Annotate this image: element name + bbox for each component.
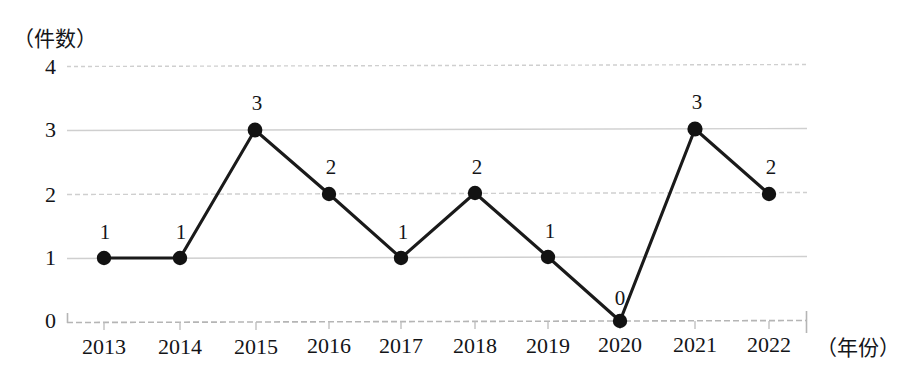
y-tick-label-0: 0 bbox=[26, 310, 56, 332]
line-chart: （件数） （年份） 4 3 2 1 0 2013 2014 2015 2016 … bbox=[0, 0, 914, 385]
data-point-2019[interactable] bbox=[541, 250, 555, 264]
y-tick-label-1: 1 bbox=[26, 247, 56, 269]
x-tick-label-2013: 2013 bbox=[66, 336, 142, 358]
data-label-2020: 0 bbox=[603, 288, 637, 309]
data-label-2021: 3 bbox=[680, 92, 714, 113]
data-point-2017[interactable] bbox=[394, 251, 408, 265]
data-label-2017: 1 bbox=[386, 222, 420, 243]
chart-svg bbox=[0, 0, 914, 385]
gridline-4 bbox=[67, 65, 807, 67]
y-axis-label: （件数） bbox=[13, 22, 97, 52]
data-point-2014[interactable] bbox=[173, 251, 187, 265]
x-axis-line bbox=[67, 321, 807, 323]
x-tick-label-2017: 2017 bbox=[363, 335, 439, 357]
data-point-2020[interactable] bbox=[613, 314, 627, 328]
x-axis bbox=[67, 311, 807, 333]
data-point-2021[interactable] bbox=[687, 121, 702, 136]
x-tick-label-2021: 2021 bbox=[657, 334, 733, 356]
data-label-2016: 2 bbox=[314, 157, 348, 178]
x-tick-label-2014: 2014 bbox=[142, 336, 218, 358]
x-tick-label-2022: 2022 bbox=[731, 334, 807, 356]
x-axis-label: （年份） bbox=[816, 331, 900, 361]
x-tick-label-2015: 2015 bbox=[218, 336, 294, 358]
y-tick-label-4: 4 bbox=[26, 56, 56, 78]
data-point-2022[interactable] bbox=[762, 187, 776, 201]
x-tick-label-2019: 2019 bbox=[510, 335, 586, 357]
data-label-2015: 3 bbox=[240, 93, 274, 114]
data-label-2019: 1 bbox=[533, 221, 567, 242]
data-label-2014: 1 bbox=[164, 222, 198, 243]
gridline-2 bbox=[67, 193, 807, 195]
y-tick-label-3: 3 bbox=[26, 119, 56, 141]
x-tick-label-2018: 2018 bbox=[437, 335, 513, 357]
series-line bbox=[104, 129, 769, 321]
chart-page: （件数） （年份） 4 3 2 1 0 2013 2014 2015 2016 … bbox=[0, 0, 914, 385]
data-point-2015[interactable] bbox=[248, 123, 263, 138]
data-point-2018[interactable] bbox=[468, 186, 482, 200]
data-point-2016[interactable] bbox=[322, 187, 336, 201]
x-tick-label-2016: 2016 bbox=[291, 335, 367, 357]
data-label-2013: 1 bbox=[88, 222, 122, 243]
data-point-2013[interactable] bbox=[97, 251, 111, 265]
x-tick-label-2020: 2020 bbox=[582, 334, 658, 356]
y-tick-label-2: 2 bbox=[26, 184, 56, 206]
data-label-2018: 2 bbox=[460, 157, 494, 178]
data-label-2022: 2 bbox=[754, 157, 788, 178]
